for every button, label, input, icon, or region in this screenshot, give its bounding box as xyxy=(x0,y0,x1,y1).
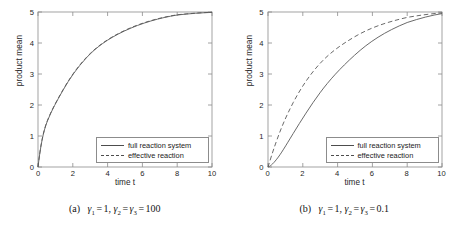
legend-item-full-reaction-system: full reaction system xyxy=(100,140,204,150)
x-tick-label-6: 6 xyxy=(140,169,144,178)
plot-svg-a xyxy=(0,0,230,198)
legend-line-solid-icon xyxy=(100,141,125,149)
caption-label-a: (a) xyxy=(69,203,80,214)
figure-panel-a: product mean time t 0 2 4 6 8 10 0 1 2 3… xyxy=(0,0,230,230)
y-tick-label-1: 1 xyxy=(250,132,264,141)
x-axis-label-a: time t xyxy=(38,178,212,187)
caption-gamma3-value-b: 0.1 xyxy=(377,203,390,214)
panel-caption-b: (b) γ1=1, γ2=γ3=0.1 xyxy=(230,203,459,216)
y-tick-label-0: 0 xyxy=(250,163,264,172)
x-tick-label-4: 4 xyxy=(335,169,339,178)
panel-caption-a: (a) γ1=1, γ2=γ3=100 xyxy=(0,203,230,216)
legend-item-effective-reaction: effective reaction xyxy=(330,150,434,160)
legend-item-effective-reaction: effective reaction xyxy=(100,150,204,160)
y-tick-label-1: 1 xyxy=(20,132,34,141)
legend-line-dashed-icon xyxy=(330,151,355,159)
plot-area-a: product mean time t 0 2 4 6 8 10 0 1 2 3… xyxy=(0,0,230,198)
legend-label-full-reaction-system: full reaction system xyxy=(355,141,421,150)
x-tick-label-8: 8 xyxy=(405,169,409,178)
x-tick-label-4: 4 xyxy=(105,169,109,178)
legend-label-full-reaction-system: full reaction system xyxy=(125,141,191,150)
x-tick-label-8: 8 xyxy=(175,169,179,178)
legend-item-full-reaction-system: full reaction system xyxy=(330,140,434,150)
y-tick-label-2: 2 xyxy=(250,101,264,110)
x-tick-label-0: 0 xyxy=(265,169,269,178)
x-tick-label-10: 10 xyxy=(208,169,216,178)
x-tick-label-10: 10 xyxy=(437,169,445,178)
caption-label-b: (b) xyxy=(299,203,311,214)
y-tick-label-4: 4 xyxy=(250,39,264,48)
x-tick-label-2: 2 xyxy=(300,169,304,178)
y-tick-label-5: 5 xyxy=(250,8,264,17)
y-tick-label-3: 3 xyxy=(20,70,34,79)
legend-b: full reaction system effective reaction xyxy=(326,137,439,163)
plot-svg-b xyxy=(230,0,459,198)
figure-panels-row: product mean time t 0 2 4 6 8 10 0 1 2 3… xyxy=(0,0,459,230)
legend-line-solid-icon xyxy=(330,141,355,149)
legend-line-dashed-icon xyxy=(100,151,125,159)
plot-area-b: product mean time t 0 2 4 6 8 10 0 1 2 3… xyxy=(230,0,459,198)
figure-panel-b: product mean time t 0 2 4 6 8 10 0 1 2 3… xyxy=(230,0,459,230)
caption-gamma3-value-a: 100 xyxy=(146,203,161,214)
y-tick-label-5: 5 xyxy=(20,8,34,17)
y-tick-label-3: 3 xyxy=(250,70,264,79)
legend-label-effective-reaction: effective reaction xyxy=(355,151,414,160)
legend-a: full reaction system effective reaction xyxy=(96,137,209,163)
y-tick-label-0: 0 xyxy=(20,163,34,172)
x-tick-label-0: 0 xyxy=(36,169,40,178)
y-axis-label-b: product mean xyxy=(244,11,253,111)
y-tick-label-4: 4 xyxy=(20,39,34,48)
x-axis-label-b: time t xyxy=(268,178,442,187)
x-tick-label-6: 6 xyxy=(370,169,374,178)
y-axis-label-a: product mean xyxy=(15,11,24,111)
legend-label-effective-reaction: effective reaction xyxy=(125,151,184,160)
x-tick-label-2: 2 xyxy=(71,169,75,178)
y-tick-label-2: 2 xyxy=(20,101,34,110)
